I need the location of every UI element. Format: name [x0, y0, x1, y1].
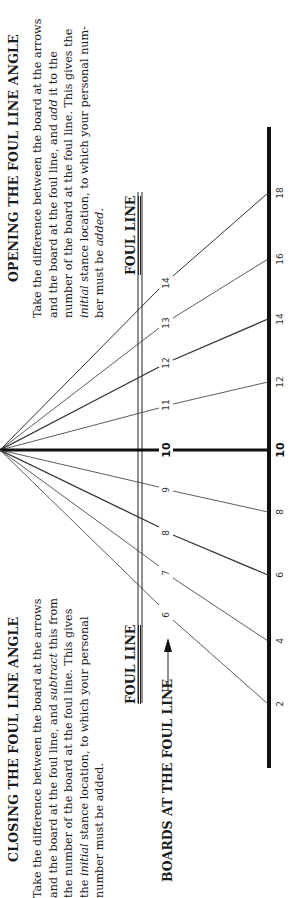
ray-13-16b	[173, 259, 268, 318]
ray-9-8b	[173, 491, 268, 512]
ray-11-12b	[173, 382, 268, 404]
foul-line-label-top: FOUL LINE	[123, 196, 141, 275]
svg-text:13: 13	[161, 317, 171, 328]
svg-text:2: 2	[275, 701, 285, 707]
ray-11-12	[0, 408, 159, 450]
ray-12-14b	[173, 319, 268, 360]
ray-8-6	[0, 450, 159, 527]
ray-9-8	[0, 450, 159, 487]
arrow-board-numbers: 14 13 12 11 10 9 8 7 6	[160, 277, 173, 618]
boards-at-foul-line-label: BOARDS AT THE FOUL LINE	[160, 679, 175, 882]
arrow-head-icon	[164, 638, 172, 652]
ray-8-6b	[173, 535, 268, 575]
closing-line-4: the initial stance location, to which yo…	[77, 598, 93, 898]
ray-6-2	[0, 450, 159, 605]
closing-title: CLOSING THE FOUL LINE ANGLE	[6, 617, 21, 862]
svg-text:14: 14	[161, 277, 171, 289]
opening-line-1: Take the difference between the board at…	[30, 19, 46, 318]
svg-text:16: 16	[275, 253, 285, 265]
opening-line-2: and the board at the foul line, and add …	[46, 19, 62, 318]
opening-title: OPENING THE FOUL LINE ANGLE	[6, 34, 21, 282]
svg-text:11: 11	[161, 399, 171, 410]
opening-line-3: number of the board at the foul line. Th…	[61, 19, 77, 318]
svg-text:4: 4	[275, 638, 285, 644]
foul-line-label-bottom: FOUL LINE	[123, 625, 141, 704]
svg-text:14: 14	[275, 313, 285, 325]
svg-text:6: 6	[161, 612, 171, 618]
svg-text:9: 9	[161, 487, 171, 493]
ray-12-14	[0, 367, 159, 450]
closing-line-1: Take the difference between the board at…	[30, 598, 46, 898]
closing-line-3: the number of the board at the foul line…	[61, 598, 77, 898]
svg-text:12: 12	[275, 376, 285, 387]
svg-text:10: 10	[274, 442, 287, 458]
opening-line-4: initial stance location, to which your p…	[77, 19, 93, 318]
opening-paragraph: Take the difference between the board at…	[30, 19, 108, 318]
svg-text:8: 8	[275, 509, 285, 515]
ray-6-2b	[173, 620, 268, 704]
svg-text:7: 7	[161, 570, 171, 576]
closing-paragraph: Take the difference between the board at…	[30, 598, 108, 898]
svg-text:6: 6	[275, 572, 285, 578]
ray-7-4b	[173, 578, 268, 641]
closing-line-2: and the board at the foul line, and subt…	[46, 598, 62, 898]
ray-7-4	[0, 450, 159, 566]
svg-text:18: 18	[275, 187, 285, 199]
closing-line-5: number must be added.	[92, 598, 108, 898]
svg-text:8: 8	[161, 530, 171, 536]
ray-13-16	[0, 328, 159, 450]
foul-line-board-numbers: 18 16 14 12 10 8 6 4 2	[274, 187, 287, 707]
svg-text:10: 10	[160, 442, 173, 458]
ray-14-18b	[173, 193, 268, 276]
svg-text:12: 12	[161, 357, 171, 368]
opening-line-5: ber must be added.	[92, 19, 108, 318]
